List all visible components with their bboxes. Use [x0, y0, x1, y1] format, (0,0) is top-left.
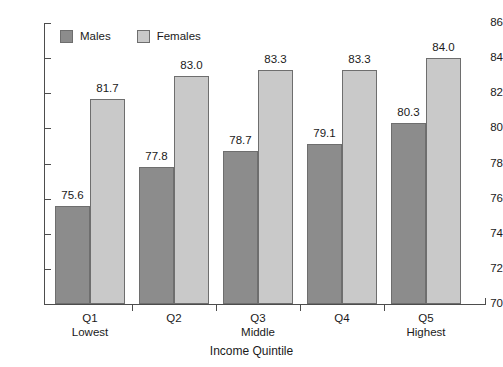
bar-value-label: 81.7: [84, 83, 131, 95]
x-axis-line: [44, 304, 486, 305]
x-axis-category-label: Q2: [134, 312, 214, 325]
bar-value-label: 80.3: [385, 107, 432, 119]
x-axis-category-sublabel: Lowest: [50, 326, 130, 339]
x-axis-title: Income Quintile: [0, 344, 503, 358]
bar-value-label: 83.3: [252, 54, 299, 66]
bar-q3-females: [258, 70, 293, 304]
bar-q5-males: [391, 123, 426, 304]
x-axis-category-sublabel: Middle: [218, 326, 298, 339]
x-axis-category-label: Q5: [386, 312, 466, 325]
x-axis-category-label: Q1: [50, 312, 130, 325]
bar-q3-males: [223, 151, 258, 304]
bar-value-label: 84.0: [420, 42, 467, 54]
bar-value-label: 75.6: [49, 190, 96, 202]
bar-value-label: 79.1: [301, 128, 348, 140]
x-axis-tick: [216, 304, 217, 311]
x-axis-category-label: Q4: [302, 312, 382, 325]
x-axis-category-sublabel: Highest: [386, 326, 466, 339]
x-axis-tick: [384, 304, 385, 311]
bar-q5-females: [426, 58, 461, 304]
bar-q4-males: [307, 144, 342, 304]
bar-q2-females: [174, 76, 209, 304]
bar-q4-females: [342, 70, 377, 304]
bar-value-label: 77.8: [133, 151, 180, 163]
plot-area: 75.681.777.883.078.783.379.183.380.384.0: [45, 23, 486, 304]
x-axis-category-label: Q3: [218, 312, 298, 325]
bar-q1-females: [90, 99, 125, 304]
bar-value-label: 83.0: [168, 60, 215, 72]
bar-value-label: 83.3: [336, 54, 383, 66]
bar-q2-males: [139, 167, 174, 304]
x-axis-tick: [132, 304, 133, 311]
bar-chart: Males Females 707274767880828486 75.681.…: [0, 0, 503, 367]
bar-q1-males: [55, 206, 90, 304]
bar-value-label: 78.7: [217, 135, 264, 147]
x-axis-tick: [300, 304, 301, 311]
